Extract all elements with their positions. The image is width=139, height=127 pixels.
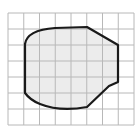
grid-diagram [0,0,139,127]
